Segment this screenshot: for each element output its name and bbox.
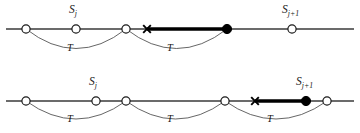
row-bottom-open-node — [22, 97, 30, 105]
row-top-open-node — [22, 25, 30, 33]
row-top-open-node — [288, 25, 296, 33]
row-top-arc-label-t-1: T — [67, 43, 73, 54]
row-top-arc-label-t-2: T — [167, 43, 173, 54]
diagram-canvas — [0, 0, 360, 133]
row-bottom-open-node — [92, 97, 100, 105]
row-top-open-node — [122, 25, 130, 33]
row-bottom-arc-label-t-3: T — [267, 114, 273, 125]
row-bottom-filled-node — [301, 96, 310, 105]
row-bottom-arc-1 — [26, 101, 126, 119]
row-bottom-arc-label-t-2: T — [167, 114, 173, 125]
row-bottom-arc-3 — [225, 101, 327, 119]
row-bottom-open-node — [122, 97, 130, 105]
row-bottom-open-node — [221, 97, 229, 105]
row-bottom-arc-label-t-1: T — [67, 114, 73, 125]
row-bottom-label-s-j-plus-1: Sj+1 — [296, 76, 313, 90]
row-top-arc-2 — [126, 29, 227, 49]
row-bottom-open-node — [323, 97, 331, 105]
row-bottom-label-s-j: Sj — [89, 76, 97, 90]
row-top-filled-node — [222, 24, 231, 33]
row-top-label-s-j-plus-1: Sj+1 — [282, 4, 299, 18]
row-top — [6, 24, 354, 48]
row-top-label-s-j: Sj — [69, 4, 77, 18]
row-bottom-arc-2 — [126, 101, 225, 119]
row-bottom — [6, 96, 354, 119]
interval-diagram-figure: Sj Sj+1 T T Sj Sj+1 T T T — [0, 0, 360, 133]
row-top-open-node — [72, 25, 80, 33]
